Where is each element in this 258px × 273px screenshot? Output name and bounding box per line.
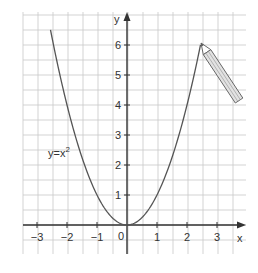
y-tick-label: 3 xyxy=(115,129,121,141)
x-tick-label: −3 xyxy=(31,231,44,243)
y-axis-label: y xyxy=(114,13,120,25)
y-tick-label: 1 xyxy=(115,189,121,201)
pencil-icon xyxy=(197,41,243,104)
x-tick-label: 2 xyxy=(184,231,190,243)
equation-exponent: 2 xyxy=(65,145,70,154)
axes xyxy=(23,12,246,254)
y-axis-arrow-icon xyxy=(124,12,131,21)
equation-base: y=x xyxy=(48,147,66,159)
x-tick-label: 3 xyxy=(214,231,220,243)
x-axis-label: x xyxy=(237,232,243,244)
equation-label: y=x2 xyxy=(48,145,70,159)
origin-label: 0 xyxy=(118,230,124,242)
x-tick-label: −1 xyxy=(91,231,104,243)
parabola-curve xyxy=(51,30,201,225)
x-tick-label: −2 xyxy=(61,231,74,243)
y-tick-label: 4 xyxy=(115,99,121,111)
y-tick-label: 2 xyxy=(115,159,121,171)
x-tick-label: 1 xyxy=(154,231,160,243)
x-axis-arrow-icon xyxy=(237,222,246,229)
grid xyxy=(23,12,246,254)
y-tick-label: 6 xyxy=(115,39,121,51)
pencil-body-line xyxy=(208,51,240,99)
y-tick-label: 5 xyxy=(115,69,121,81)
parabola-chart: −3−2−1123123456 x y 0 y=x2 xyxy=(0,0,258,273)
